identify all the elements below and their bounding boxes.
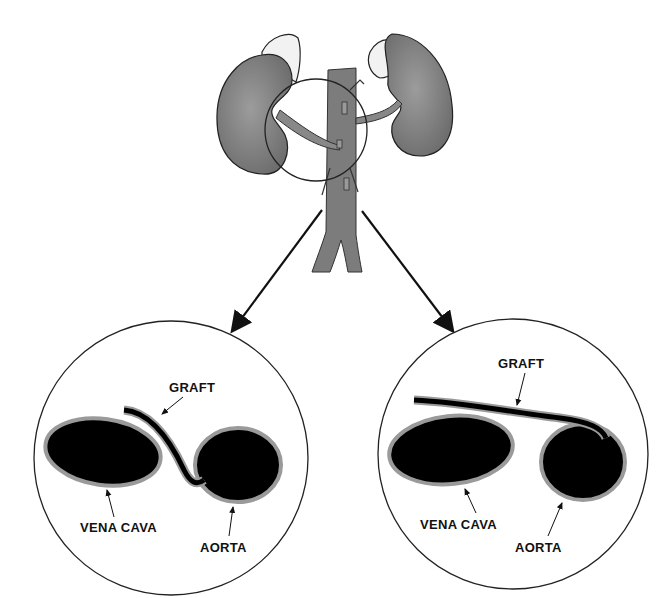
diagram-canvas: GRAFT VENA CAVA AORTA GRAFT VENA CAVA AO… [0, 0, 672, 598]
vena-cava-label-left: VENA CAVA [80, 520, 157, 535]
right-kidney [385, 34, 453, 156]
aortic-trunk [312, 68, 362, 272]
aorta-label-left: AORTA [200, 540, 247, 555]
aorta-right [541, 424, 625, 500]
aorta-left [195, 428, 281, 502]
arrow-to-right-panel [362, 211, 452, 330]
graft-label-right: GRAFT [498, 356, 544, 371]
right-cross-section-panel: GRAFT VENA CAVA AORTA [378, 319, 648, 589]
graft-label-left: GRAFT [169, 380, 215, 395]
aorta-label-right: AORTA [515, 540, 562, 555]
left-cross-section-panel: GRAFT VENA CAVA AORTA [34, 321, 308, 595]
arrow-to-left-panel [233, 210, 322, 330]
kidneys-figure [217, 34, 453, 272]
vena-cava-label-right: VENA CAVA [420, 517, 497, 532]
